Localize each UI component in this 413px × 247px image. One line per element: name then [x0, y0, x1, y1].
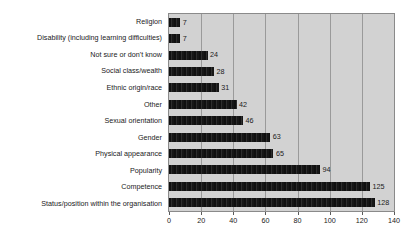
- bar-row: 31: [169, 83, 394, 92]
- x-tick-label: 60: [261, 217, 269, 224]
- category-label: Physical appearance: [0, 150, 166, 157]
- bar: [169, 100, 237, 109]
- bar-row: 46: [169, 116, 394, 125]
- bar-value-label: 28: [217, 68, 225, 75]
- bar-row: 128: [169, 198, 394, 207]
- bar: [169, 83, 219, 92]
- bar-value-label: 7: [183, 19, 187, 26]
- category-label: Popularity: [0, 167, 166, 174]
- category-label: Sexual orientation: [0, 117, 166, 124]
- bar-row: 125: [169, 182, 394, 191]
- x-tick-mark: [233, 212, 234, 215]
- category-axis-labels: Religion Disability (including learning …: [0, 13, 166, 212]
- bar-chart: Religion Disability (including learning …: [0, 0, 413, 247]
- bar: [169, 34, 180, 43]
- bar-value-label: 128: [377, 199, 389, 206]
- category-label: Ethnic origin/race: [0, 84, 166, 91]
- x-axis: 020406080100120140: [168, 212, 395, 234]
- bar: [169, 182, 370, 191]
- bar: [169, 149, 273, 158]
- bar: [169, 198, 375, 207]
- x-tick-mark: [169, 212, 170, 215]
- bar-value-label: 31: [221, 84, 229, 91]
- bar-value-label: 125: [372, 183, 384, 190]
- bar-row: 42: [169, 100, 394, 109]
- x-tick-label: 100: [324, 217, 336, 224]
- category-label: Religion: [0, 18, 166, 25]
- bar-value-label: 46: [245, 117, 253, 124]
- category-label: Gender: [0, 134, 166, 141]
- bar-value-label: 63: [273, 133, 281, 140]
- category-label: Competence: [0, 183, 166, 190]
- bar-series: 772428314246636594125128: [169, 14, 394, 211]
- plot-area: 772428314246636594125128: [168, 13, 395, 212]
- bar: [169, 133, 270, 142]
- x-tick-label: 140: [388, 217, 400, 224]
- bar: [169, 18, 180, 27]
- bar: [169, 165, 320, 174]
- x-tick-label: 20: [197, 217, 205, 224]
- category-label: Not sure or don't know: [0, 51, 166, 58]
- bar-row: 7: [169, 18, 394, 27]
- x-tick-mark: [201, 212, 202, 215]
- category-label: Other: [0, 101, 166, 108]
- category-label: Status/position within the organisation: [0, 200, 166, 207]
- bar-value-label: 94: [323, 166, 331, 173]
- category-label: Disability (including learning difficult…: [0, 34, 166, 41]
- bar-row: 24: [169, 51, 394, 60]
- x-tick-mark: [394, 212, 395, 215]
- bar-value-label: 65: [276, 150, 284, 157]
- bar-value-label: 24: [210, 51, 218, 58]
- bar-value-label: 42: [239, 101, 247, 108]
- x-tick-mark: [362, 212, 363, 215]
- bar: [169, 67, 214, 76]
- x-tick-label: 40: [229, 217, 237, 224]
- bar-row: 63: [169, 133, 394, 142]
- x-tick-mark: [265, 212, 266, 215]
- x-tick-label: 80: [294, 217, 302, 224]
- bar-row: 65: [169, 149, 394, 158]
- x-tick-label: 0: [167, 217, 171, 224]
- bar: [169, 116, 243, 125]
- bar: [169, 51, 208, 60]
- bar-row: 94: [169, 165, 394, 174]
- category-label: Social class/wealth: [0, 67, 166, 74]
- x-tick-label: 120: [356, 217, 368, 224]
- bar-value-label: 7: [183, 35, 187, 42]
- bar-row: 7: [169, 34, 394, 43]
- bar-row: 28: [169, 67, 394, 76]
- x-tick-mark: [330, 212, 331, 215]
- x-tick-mark: [298, 212, 299, 215]
